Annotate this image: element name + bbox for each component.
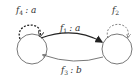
edge-label-f3: f3: b [60,65,82,75]
edge-label-f2: f2 [111,5,119,16]
state-node-left [17,34,47,64]
edge-label-f1: f1: a [59,23,80,34]
edge-f3 [43,55,103,61]
state-diagram: f4: a f2 f1: a f3: b [0,0,138,75]
edge-f1 [41,33,102,42]
state-node-right [102,34,132,64]
edge-label-f4: f4: a [15,5,36,16]
